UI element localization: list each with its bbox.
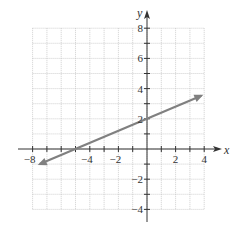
y-axis-label: y (136, 6, 143, 20)
x-tick-label: −2 (110, 153, 122, 165)
y-tick-label: 8 (138, 22, 144, 34)
x-tick-label: −4 (81, 153, 93, 165)
grid (33, 28, 205, 209)
y-tick-label: 4 (138, 83, 144, 95)
x-tick-label: −8 (24, 153, 36, 165)
x-axis-label: x (223, 143, 230, 157)
y-tick-label: 6 (138, 52, 144, 64)
y-tick-label: −4 (131, 203, 143, 215)
tick-labels: −8−4−2248642−2−4xy (24, 6, 230, 215)
coordinate-plane: −8−4−2248642−2−4xy (0, 0, 234, 232)
axes (18, 10, 222, 222)
y-tick-label: −2 (131, 173, 143, 185)
x-tick-label: 2 (173, 153, 179, 165)
y-tick-label: 2 (138, 113, 144, 125)
x-tick-label: 4 (201, 153, 207, 165)
